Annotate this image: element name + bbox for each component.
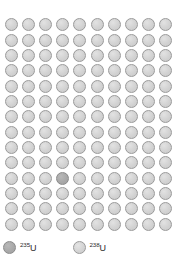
atom-u238	[108, 80, 121, 93]
atom-u238	[142, 187, 155, 200]
atom-u238	[5, 34, 18, 47]
atom-u238	[125, 172, 138, 185]
atom-cell	[20, 155, 37, 170]
atom-cell	[140, 94, 157, 109]
atom-u238	[39, 18, 52, 31]
atom-cell	[140, 201, 157, 216]
atom-cell	[37, 109, 54, 124]
uranium-isotope-figure: 235U 238U	[0, 0, 175, 259]
atom-cell	[54, 216, 71, 231]
atom-cell	[106, 63, 123, 78]
legend-mass-number-u238: 238	[90, 241, 100, 248]
atom-u238	[56, 18, 69, 31]
atom-u238	[91, 172, 104, 185]
atom-u238	[39, 141, 52, 154]
atom-u238	[22, 18, 35, 31]
atom-u238	[22, 126, 35, 139]
atom-u238	[125, 34, 138, 47]
atom-cell	[88, 109, 105, 124]
atom-u238	[56, 80, 69, 93]
atom-cell	[3, 186, 20, 201]
atom-u238	[125, 18, 138, 31]
atom-u238	[39, 80, 52, 93]
atom-cell	[88, 63, 105, 78]
atom-cell	[71, 63, 88, 78]
atom-u238	[22, 110, 35, 123]
atom-u238	[142, 156, 155, 169]
atom-cell	[157, 201, 174, 216]
atom-cell	[37, 216, 54, 231]
atom-cell	[20, 63, 37, 78]
atom-cell	[123, 201, 140, 216]
atom-u238	[22, 202, 35, 215]
atom-cell	[37, 48, 54, 63]
atom-u238	[91, 141, 104, 154]
atom-u238	[73, 156, 86, 169]
atom-cell	[88, 32, 105, 47]
atom-cell	[54, 155, 71, 170]
atom-u238	[108, 49, 121, 62]
atom-u238	[108, 110, 121, 123]
atom-u238	[108, 187, 121, 200]
atom-cell	[140, 48, 157, 63]
atom-u238	[73, 34, 86, 47]
atom-cell	[157, 78, 174, 93]
atom-u238	[73, 126, 86, 139]
atom-cell	[123, 140, 140, 155]
atom-u238	[142, 126, 155, 139]
atom-cell	[106, 94, 123, 109]
atom-cell	[157, 109, 174, 124]
atom-cell	[20, 109, 37, 124]
atom-u238	[108, 141, 121, 154]
atom-u238	[159, 156, 172, 169]
atom-cell	[54, 17, 71, 32]
atom-u238	[91, 34, 104, 47]
atom-u238	[108, 172, 121, 185]
atom-cell	[54, 201, 71, 216]
atom-cell	[88, 17, 105, 32]
atom-u238	[22, 187, 35, 200]
atom-cell	[54, 109, 71, 124]
atom-u238	[125, 202, 138, 215]
atom-u238	[108, 202, 121, 215]
atom-cell	[54, 94, 71, 109]
atom-u238	[73, 110, 86, 123]
atom-cell	[88, 216, 105, 231]
atom-cell	[54, 140, 71, 155]
legend-item-u235[interactable]: 235U	[3, 238, 37, 257]
atom-cell	[20, 124, 37, 139]
atom-cell	[3, 109, 20, 124]
atom-u238	[56, 64, 69, 77]
atom-cell	[20, 186, 37, 201]
atom-u238	[5, 18, 18, 31]
atom-u238	[22, 95, 35, 108]
atom-u238	[142, 18, 155, 31]
atom-cell	[3, 17, 20, 32]
atom-u238	[91, 64, 104, 77]
atom-cell	[123, 155, 140, 170]
atom-cell	[20, 17, 37, 32]
atom-cell	[3, 124, 20, 139]
atom-u238	[73, 172, 86, 185]
legend-symbol-u235: U	[30, 243, 37, 253]
atom-u238	[73, 64, 86, 77]
atom-cell	[88, 155, 105, 170]
atom-cell	[71, 78, 88, 93]
atom-cell	[3, 78, 20, 93]
atom-u238	[142, 49, 155, 62]
atom-cell	[3, 48, 20, 63]
legend-mass-number-u235: 235	[20, 241, 30, 248]
atom-u238	[125, 110, 138, 123]
atom-cell	[123, 216, 140, 231]
atom-cell	[37, 63, 54, 78]
atom-cell	[37, 170, 54, 185]
atom-u238	[91, 80, 104, 93]
atom-u238	[39, 110, 52, 123]
legend-label-u235: 235U	[20, 242, 37, 253]
legend-item-u238[interactable]: 238U	[73, 238, 107, 257]
atom-u238	[125, 187, 138, 200]
atom-u238	[159, 80, 172, 93]
atom-cell	[88, 94, 105, 109]
atom-u238	[22, 80, 35, 93]
atom-cell	[37, 32, 54, 47]
